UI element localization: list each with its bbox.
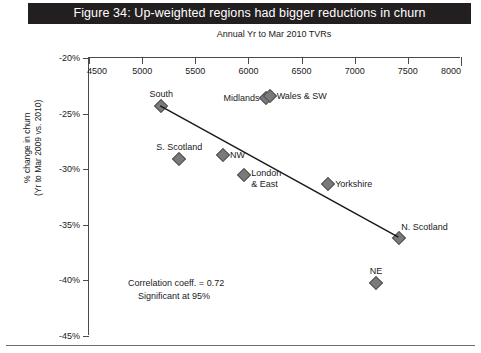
y-axis-title-line2: (Yr to Mar 2009 vs. 2010) [33,100,44,196]
x-tick-mark [142,57,143,64]
y-tick-label: -35% [59,220,80,230]
y-tick-label: -25% [59,109,80,119]
data-point-label: NE [370,266,383,277]
annotation-line-1: Correlation coeff. = 0.72 [128,277,224,290]
figure-title: Figure 34: Up-weighted regions had bigge… [73,6,425,20]
y-tick-mark [83,114,89,115]
data-point-label: Yorkshire [335,178,372,189]
data-point-marker [237,168,251,182]
y-tick-label: -20% [59,53,80,63]
x-tick-label: 7000 [345,66,365,76]
x-tick-label: 5500 [185,66,205,76]
data-point-label: N. Scotland [401,222,448,233]
data-point-label: South [150,89,174,100]
x-tick-mark [355,57,356,64]
data-point-label: Wales & SW [277,90,327,101]
bottom-divider [6,345,475,346]
y-tick-mark [83,336,89,337]
data-point-marker [321,177,335,191]
x-tick-mark [461,57,462,66]
data-point-marker [172,152,186,166]
figure-title-bar: Figure 34: Up-weighted regions had bigge… [28,3,471,24]
correlation-annotation: Correlation coeff. = 0.72 Significant at… [128,277,224,302]
x-tick-label: 6500 [292,66,312,76]
data-point-label: NW [230,149,245,160]
x-axis-caption: Annual Yr to Mar 2010 TVRs [88,29,460,39]
y-tick-mark [83,280,89,281]
annotation-line-2: Significant at 95% [128,290,224,303]
x-tick-label: 5000 [132,66,152,76]
y-axis-title: % change in churn (Yr to Mar 2009 vs. 20… [22,100,43,196]
x-tick-label: 8000 [441,66,461,76]
x-tick-mark [408,57,409,64]
data-point-marker [216,148,230,162]
y-tick-mark [83,169,89,170]
x-tick-mark [302,57,303,64]
x-tick-mark [89,57,90,64]
y-tick-mark [83,225,89,226]
x-tick-mark [195,57,196,64]
x-tick-label: 6000 [238,66,258,76]
data-point-label: London& East [251,168,281,190]
x-tick-label: 7500 [398,66,418,76]
x-tick-label: 4500 [87,66,107,76]
y-tick-mark [83,58,89,59]
data-point-marker [369,276,383,290]
data-point-marker [154,99,168,113]
data-point-label: S. Scotland [156,142,202,153]
y-tick-label: -40% [59,275,80,285]
figure-chart: Figure 34: Up-weighted regions had bigge… [0,0,481,353]
x-tick-mark [248,57,249,64]
y-tick-label: -45% [59,331,80,341]
data-point-label: Midlands [223,93,259,104]
y-tick-label: -30% [59,164,80,174]
y-axis-title-line1: % change in churn [22,100,33,196]
data-point-marker [392,231,406,245]
